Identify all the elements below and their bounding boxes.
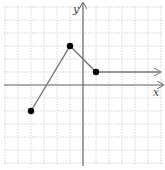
piecewise-function-graph [28, 43, 160, 114]
y-axis-label: y [72, 3, 80, 16]
function-segments [31, 46, 96, 111]
axes: x y [4, 3, 163, 166]
coordinate-plane: x y [0, 0, 165, 170]
x-axis-label: x [153, 86, 160, 99]
closed-point [28, 108, 34, 114]
closed-point [93, 69, 99, 75]
closed-point [67, 43, 73, 49]
